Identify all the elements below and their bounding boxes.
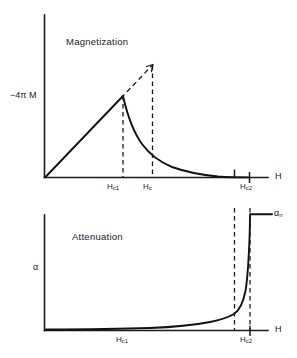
attenuation-x-axis-label: H [275, 325, 282, 334]
attenuation-panel [45, 208, 273, 336]
attenuation-panel-title: Attenuation [72, 232, 123, 242]
attenuation-y-axis-label: α [33, 263, 38, 272]
attenuation-xtick-hc2: Hc2 [240, 336, 252, 344]
magnetization-ideal-extrapolation [121, 65, 153, 98]
attenuation-xtick-hc2-sub: c2 [246, 338, 252, 344]
attenuation-plateau-label-sub: n [279, 212, 282, 218]
magnetization-y-axis-label: −4π M [10, 91, 36, 100]
magnetization-xtick-hc2: Hc2 [240, 183, 252, 191]
magnetization-x-axis-label: H [275, 172, 282, 181]
magnetization-xtick-hc: Hc [143, 183, 152, 191]
magnetization-xtick-hc2-sub: c2 [246, 185, 252, 191]
magnetization-panel-title: Magnetization [66, 37, 128, 47]
magnetization-xtick-hc1: Hc1 [107, 183, 119, 191]
magnetization-decay-curve [123, 96, 248, 177]
magnetization-linear-rise [46, 96, 124, 177]
figure-container: Magnetization −4π M Hc1 Hc Hc2 H Attenua… [0, 0, 297, 358]
attenuation-xtick-hc1-sub: c1 [122, 338, 128, 344]
attenuation-plateau-label: αn [274, 209, 283, 218]
magnetization-xtick-hc1-sub: c1 [113, 185, 119, 191]
magnetization-xtick-hc-sub: c [149, 185, 152, 191]
figure-canvas [0, 0, 297, 358]
attenuation-xtick-hc1: Hc1 [116, 336, 128, 344]
